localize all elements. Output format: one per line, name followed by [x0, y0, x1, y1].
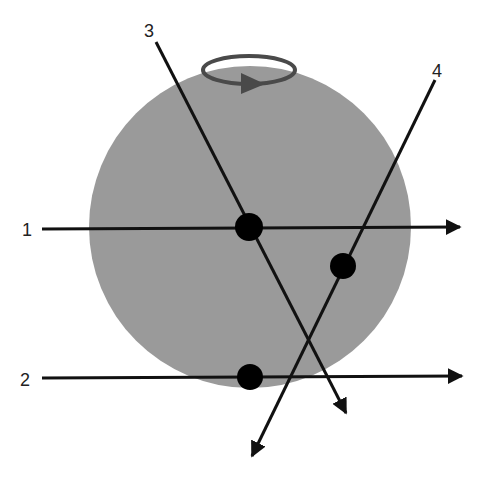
point-p1: [235, 213, 263, 241]
point-p2: [330, 253, 356, 279]
line-label-1: 1: [22, 220, 32, 240]
line-label-3: 3: [144, 21, 154, 41]
line-label-4: 4: [432, 61, 442, 81]
point-p3: [237, 364, 263, 390]
sphere-diagram: 1234: [0, 0, 478, 478]
line-label-2: 2: [20, 370, 30, 390]
